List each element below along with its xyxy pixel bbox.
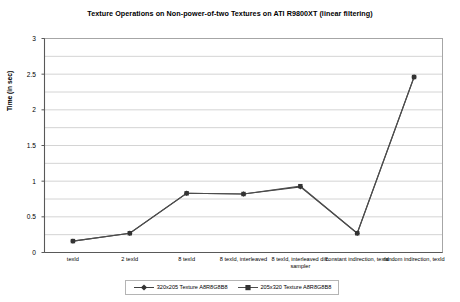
y-tick-label: 2.5 xyxy=(12,71,36,78)
data-point-square xyxy=(355,231,359,235)
data-series-layer xyxy=(70,74,417,243)
chart-container: Texture Operations on Non-power-of-two T… xyxy=(0,0,460,302)
data-point-square xyxy=(71,239,75,243)
legend-label-series-2: 205x320 Texture A8R8G8B8 xyxy=(261,284,332,291)
legend-item-series-1: 320x205 Texture A8R8G8B8 xyxy=(133,283,228,292)
gridlines-group xyxy=(45,39,443,253)
data-point-square xyxy=(128,231,132,235)
series-2 xyxy=(71,75,417,243)
data-point-square xyxy=(412,75,416,79)
y-tick-label: 0.5 xyxy=(12,213,36,220)
legend-marker-diamond-icon xyxy=(133,283,155,292)
y-tick-label: 1 xyxy=(12,178,36,185)
y-tick-label: 3 xyxy=(12,35,36,42)
x-tick-label: random indirection, texId xyxy=(380,256,449,263)
y-tick-label: 0 xyxy=(12,249,36,256)
y-tick-label: 1.5 xyxy=(12,142,36,149)
series-1 xyxy=(70,74,417,243)
chart-legend: 320x205 Texture A8R8G8B8 205x320 Texture… xyxy=(125,280,339,295)
legend-marker-square-icon xyxy=(237,283,259,292)
data-point-square xyxy=(298,184,302,188)
y-tick-label: 2 xyxy=(12,106,36,113)
legend-label-series-1: 320x205 Texture A8R8G8B8 xyxy=(157,284,228,291)
data-point-square xyxy=(241,192,245,196)
data-point-square xyxy=(184,191,188,195)
legend-item-series-2: 205x320 Texture A8R8G8B8 xyxy=(237,283,332,292)
